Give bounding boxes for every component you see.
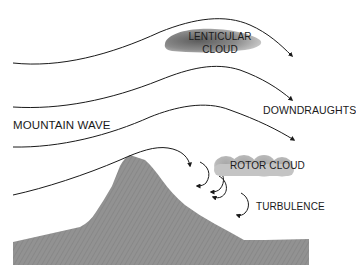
turbulence-eddy-1 (197, 162, 209, 186)
downdraughts-label: DOWNDRAUGHTS (263, 105, 356, 116)
lenticular-cloud-label-line1: LENTICULAR (180, 30, 260, 43)
lenticular-cloud-label-line2: CLOUD (180, 43, 260, 56)
turbulence-eddy-3-main (214, 176, 226, 199)
airflow-line-2 (13, 66, 292, 107)
turbulence-eddy-c (213, 176, 226, 198)
mountain-wave-label: MOUNTAIN WAVE (13, 120, 111, 132)
turbulence-eddy-4 (237, 193, 248, 215)
rotor-cloud-label: ROTOR CLOUD (230, 161, 305, 171)
turbulence-label: TURBULENCE (256, 202, 325, 212)
lenticular-cloud-label: LENTICULAR CLOUD (180, 30, 260, 56)
